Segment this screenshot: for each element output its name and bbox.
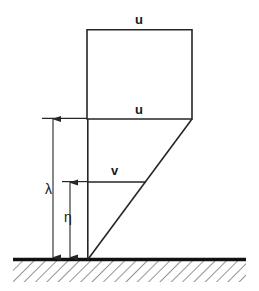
- profile-diagonal-taper: [88, 119, 192, 259]
- label-u-top: u: [135, 13, 143, 26]
- ground-group: [13, 260, 246, 283]
- diagram-canvas: [0, 0, 259, 291]
- label-eta: η: [64, 210, 72, 224]
- velocity-profile-group: [87, 30, 192, 259]
- label-v: v: [111, 164, 118, 177]
- ground-hatching: [13, 261, 246, 282]
- label-u-mid: u: [135, 103, 143, 116]
- figure-container: u u v λ η: [0, 0, 259, 291]
- dimension-extension-lines: [42, 118, 88, 181]
- label-lambda: λ: [45, 182, 52, 196]
